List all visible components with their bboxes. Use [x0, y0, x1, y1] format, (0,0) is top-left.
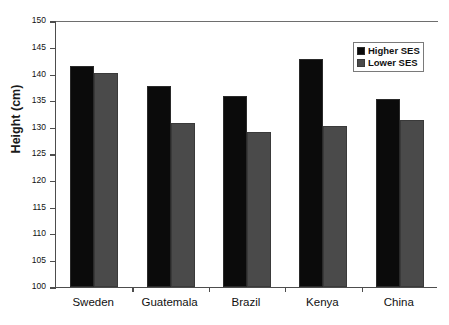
- x-axis-label-brazil: Brazil: [232, 296, 261, 308]
- x-axis-tick: [362, 287, 363, 292]
- bar-brazil-lower-ses: [247, 132, 271, 287]
- legend-item-lower-ses: Lower SES: [357, 57, 420, 68]
- x-axis-tick: [209, 287, 210, 292]
- y-axis-tick-label: 105: [20, 255, 46, 265]
- x-axis-tick: [132, 287, 133, 292]
- bar-china-lower-ses: [400, 120, 424, 287]
- x-axis-tick: [285, 287, 286, 292]
- y-axis-tick-label: 145: [20, 42, 46, 52]
- bar-sweden-lower-ses: [94, 73, 118, 287]
- y-axis-tick-label: 120: [20, 175, 46, 185]
- y-axis-tick-label: 140: [20, 69, 46, 79]
- bar-sweden-higher-ses: [70, 66, 94, 287]
- bar-kenya-higher-ses: [299, 59, 323, 287]
- legend-swatch-icon-lower-ses: [357, 59, 365, 67]
- legend-label-lower-ses: Lower SES: [368, 58, 418, 68]
- legend-swatch-icon-higher-ses: [357, 47, 365, 55]
- y-axis-tick-label: 110: [20, 228, 46, 238]
- bar-brazil-higher-ses: [223, 96, 247, 287]
- chart-legend: Higher SES Lower SES: [353, 42, 424, 72]
- legend-item-higher-ses: Higher SES: [357, 46, 420, 57]
- x-axis-label-china: China: [384, 296, 414, 308]
- bar-guatemala-higher-ses: [147, 86, 171, 287]
- y-axis-tick-label: 115: [20, 202, 46, 212]
- legend-label-higher-ses: Higher SES: [368, 46, 420, 56]
- y-axis-tick-label: 100: [20, 281, 46, 291]
- bar-chart: Height (cm) 1501451401351301251201151101…: [0, 0, 449, 325]
- bar-china-higher-ses: [376, 99, 400, 287]
- y-axis-tick-label: 150: [20, 15, 46, 25]
- x-axis-label-sweden: Sweden: [72, 296, 114, 308]
- bar-guatemala-lower-ses: [171, 123, 195, 287]
- y-axis-tick-label: 125: [20, 148, 46, 158]
- x-axis-label-guatemala: Guatemala: [141, 296, 197, 308]
- y-axis-tick-label: 135: [20, 95, 46, 105]
- y-axis-tick-label: 130: [20, 122, 46, 132]
- x-axis-label-kenya: Kenya: [306, 296, 339, 308]
- bar-kenya-lower-ses: [323, 126, 347, 287]
- y-axis-tick: 100: [50, 287, 56, 288]
